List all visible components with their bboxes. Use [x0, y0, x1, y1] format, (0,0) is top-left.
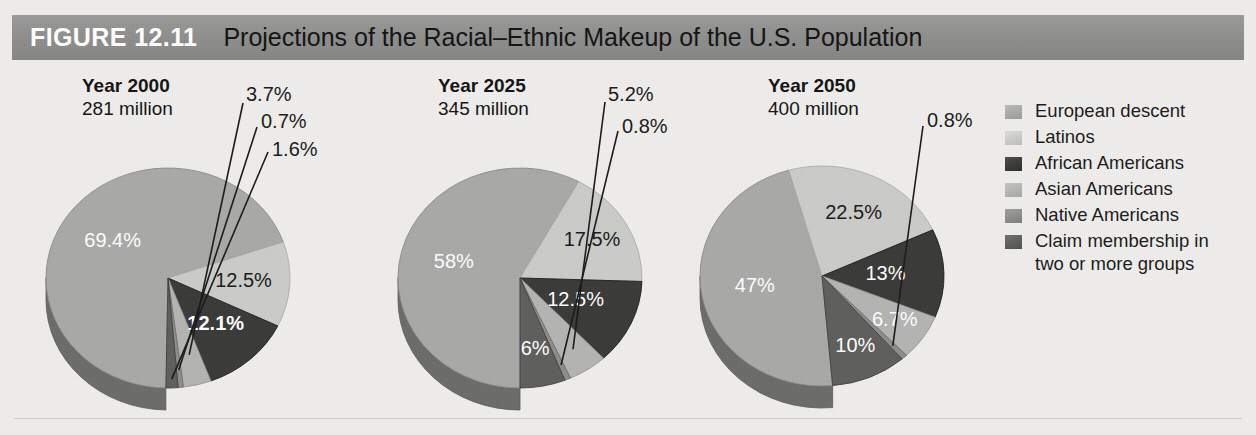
figure-title: Projections of the Racial–Ethnic Makeup …: [197, 23, 922, 52]
legend-item[interactable]: Native Americans: [1005, 204, 1209, 227]
legend-label-two-or-more-groups: Claim membership in two or more groups: [1035, 230, 1209, 275]
figure-header-bar: FIGURE 12.11 Projections of the Racial–E…: [12, 15, 1244, 60]
pie-slice-label: 0.8%: [927, 109, 973, 131]
pie-slice-label: 22.5%: [825, 201, 882, 223]
pie-slice-label: 10%: [835, 334, 875, 356]
legend-item[interactable]: African Americans: [1005, 152, 1209, 175]
pie-slice-label: 47%: [735, 274, 775, 296]
pie-slice-label: 13%: [865, 262, 905, 284]
legend-swatch-asian-americans: [1005, 183, 1022, 197]
legend-swatch-european-descent: [1005, 105, 1022, 119]
legend-label-native-americans: Native Americans: [1035, 204, 1179, 227]
pie-year-2050: Year 2050: [768, 74, 859, 97]
legend-item[interactable]: Asian Americans: [1005, 178, 1209, 201]
pie-slice-label: 6%: [521, 337, 550, 359]
legend-label-latinos: Latinos: [1035, 126, 1095, 149]
pie-slice-label: 58%: [434, 250, 474, 272]
legend-label-european-descent: European descent: [1035, 100, 1185, 123]
pie-slice-label: 0.8%: [622, 115, 668, 137]
pie-slice-label: 0.7%: [261, 110, 307, 132]
legend-swatch-latinos: [1005, 131, 1022, 145]
figure-container: FIGURE 12.11 Projections of the Racial–E…: [0, 0, 1256, 435]
legend-label-asian-americans: Asian Americans: [1035, 178, 1173, 201]
legend-swatch-two-or-more-groups: [1005, 235, 1022, 249]
pie-slice-label: 5.2%: [608, 83, 654, 105]
pie-slice-label: 69.4%: [84, 229, 141, 251]
pie-year-2000: Year 2000: [82, 74, 173, 97]
legend-item[interactable]: Claim membership in two or more groups: [1005, 230, 1209, 275]
legend-swatch-african-americans: [1005, 157, 1022, 171]
pie-year-2025: Year 2025: [438, 74, 529, 97]
pie-slice-label: 1.6%: [272, 138, 318, 160]
legend: European descent Latinos African America…: [1005, 100, 1209, 278]
pie-slice-label: 12.5%: [215, 269, 272, 291]
pie-slice-label: 3.7%: [246, 83, 292, 105]
legend-label-african-americans: African Americans: [1035, 152, 1184, 175]
pie-chart-2000: 69.4%12.5%12.1%3.7%0.7%1.6%: [0, 110, 400, 430]
legend-swatch-native-americans: [1005, 209, 1022, 223]
figure-number: FIGURE 12.11: [12, 23, 197, 52]
legend-item[interactable]: European descent: [1005, 100, 1209, 123]
legend-item[interactable]: Latinos: [1005, 126, 1209, 149]
